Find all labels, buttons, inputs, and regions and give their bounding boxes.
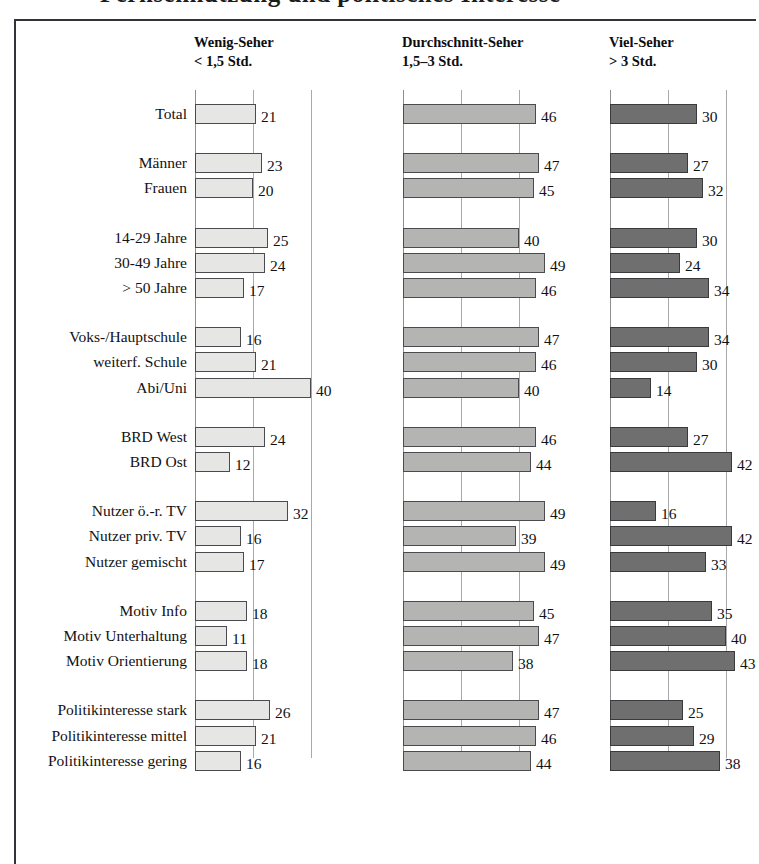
bar <box>195 278 244 298</box>
bar <box>403 427 536 447</box>
bar <box>195 552 244 572</box>
bar-value-label: 21 <box>261 357 277 373</box>
bar <box>403 452 531 472</box>
gridline-wenig-40 <box>311 90 312 758</box>
bar <box>610 253 680 273</box>
bar-value-label: 23 <box>267 158 283 174</box>
bar-value-label: 46 <box>541 357 557 373</box>
row-label: 30-49 Jahre <box>114 254 187 272</box>
row-label: Politikinteresse gering <box>48 752 187 770</box>
bar <box>195 253 265 273</box>
bar-value-label: 42 <box>737 457 753 473</box>
bar <box>403 253 545 273</box>
row-label: Abi/Uni <box>136 379 187 397</box>
bar-value-label: 47 <box>544 158 560 174</box>
row-label: Männer <box>139 154 187 172</box>
bar <box>610 501 656 521</box>
bar-value-label: 24 <box>685 258 701 274</box>
row-label: Politikinteresse stark <box>57 701 187 719</box>
column-header-wenig: Wenig-Seher< 1,5 Std. <box>194 33 274 71</box>
bar-value-label: 35 <box>717 606 733 622</box>
bar <box>403 278 536 298</box>
bar-value-label: 43 <box>740 656 756 672</box>
bar <box>403 327 539 347</box>
bar <box>403 726 536 746</box>
bar <box>195 452 230 472</box>
bar <box>195 626 227 646</box>
bar-value-label: 49 <box>550 506 566 522</box>
chart-plot-area: Wenig-Seher< 1,5 Std.Durchschnitt-Seher1… <box>0 0 759 864</box>
bar-value-label: 34 <box>714 332 730 348</box>
bar-value-label: 12 <box>235 457 251 473</box>
row-label: 14-29 Jahre <box>114 229 187 247</box>
row-label: BRD West <box>121 428 187 446</box>
bar <box>610 452 732 472</box>
bar <box>403 700 539 720</box>
bar-value-label: 16 <box>246 531 262 547</box>
column-header-durchschnitt: Durchschnitt-Seher1,5–3 Std. <box>402 33 523 71</box>
bar <box>610 726 694 746</box>
column-header-range: 1,5–3 Std. <box>402 52 523 71</box>
bar-value-label: 14 <box>656 383 672 399</box>
bar-value-label: 46 <box>541 109 557 125</box>
row-label: weiterf. Schule <box>93 353 187 371</box>
bar-value-label: 44 <box>536 756 552 772</box>
bar <box>610 626 726 646</box>
bar <box>610 228 697 248</box>
bar <box>403 601 534 621</box>
bar-value-label: 17 <box>249 557 265 573</box>
bar <box>403 651 513 671</box>
bar <box>195 651 247 671</box>
bar <box>403 178 534 198</box>
bar <box>610 327 709 347</box>
bar-value-label: 25 <box>273 233 289 249</box>
bar <box>195 352 256 372</box>
bar-value-label: 32 <box>293 506 309 522</box>
bar <box>610 651 735 671</box>
bar <box>403 378 519 398</box>
bar <box>610 526 732 546</box>
bar <box>610 601 712 621</box>
bar <box>403 501 545 521</box>
column-header-viel: Viel-Seher> 3 Std. <box>609 33 674 71</box>
bar-value-label: 21 <box>261 109 277 125</box>
bar-value-label: 18 <box>252 606 268 622</box>
column-header-label: Durchschnitt-Seher <box>402 33 523 52</box>
bar <box>610 552 706 572</box>
row-label: Motiv Orientierung <box>66 652 187 670</box>
bar-value-label: 24 <box>270 258 286 274</box>
bar-value-label: 18 <box>252 656 268 672</box>
bar-value-label: 46 <box>541 731 557 747</box>
bar <box>195 104 256 124</box>
bar-value-label: 45 <box>539 183 555 199</box>
bar-value-label: 11 <box>232 631 247 647</box>
row-label: Frauen <box>144 179 187 197</box>
bar <box>195 751 241 771</box>
bar <box>195 427 265 447</box>
bar <box>610 178 703 198</box>
bar-value-label: 47 <box>544 631 560 647</box>
row-label: > 50 Jahre <box>122 279 187 297</box>
bar-value-label: 33 <box>711 557 727 573</box>
bar-value-label: 42 <box>737 531 753 547</box>
bar <box>195 228 268 248</box>
bar-value-label: 45 <box>539 606 555 622</box>
bar-value-label: 39 <box>521 531 537 547</box>
bar-value-label: 21 <box>261 731 277 747</box>
bar <box>195 700 270 720</box>
bar-value-label: 40 <box>316 383 332 399</box>
bar-value-label: 16 <box>246 332 262 348</box>
bar <box>195 601 247 621</box>
bar-value-label: 32 <box>708 183 724 199</box>
column-header-label: Viel-Seher <box>609 33 674 52</box>
bar <box>195 526 241 546</box>
row-label: Politikinteresse mittel <box>51 727 187 745</box>
bar-value-label: 34 <box>714 283 730 299</box>
column-header-range: > 3 Std. <box>609 52 674 71</box>
bar-value-label: 25 <box>688 705 704 721</box>
bar-value-label: 30 <box>702 233 718 249</box>
bar <box>403 526 516 546</box>
bar <box>195 726 256 746</box>
bar-value-label: 30 <box>702 357 718 373</box>
bar <box>195 153 262 173</box>
